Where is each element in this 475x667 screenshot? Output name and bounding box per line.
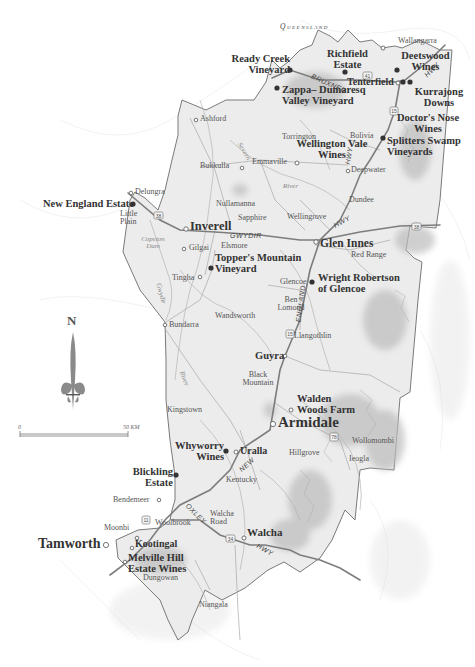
town-bendemeer: Bendemeer xyxy=(113,496,149,504)
water-label-copeton-dam: Copeton Dam xyxy=(138,236,168,251)
winery-walden-woods-farm[interactable]: Walden Woods Farm xyxy=(297,393,363,415)
scale-start-label: 0 xyxy=(18,424,21,430)
town-niangala: Niangala xyxy=(199,601,228,609)
winery-doctors-nose-wines[interactable]: Doctor's Nose Wines xyxy=(396,112,460,134)
town-wellingrove: Wellingrove xyxy=(287,213,326,221)
town-llangothlin: Llangothlin xyxy=(294,332,331,340)
north-label: N xyxy=(67,313,76,329)
winery-ready-creek-vineyard[interactable]: Ready Creek Vineyard xyxy=(230,53,290,75)
town-tingha: Tingha xyxy=(172,274,194,282)
town-ben-lomond: Ben Lomond xyxy=(277,296,305,313)
town-walcha-road: Walcha Road xyxy=(210,510,234,527)
winery-kurrajong-downs[interactable]: Kurrajong Downs xyxy=(414,86,464,108)
town-ashford: Ashford xyxy=(200,115,226,123)
town-walcha: Walcha xyxy=(247,527,282,539)
winery-new-england-estate[interactable]: New England Estate xyxy=(43,198,134,209)
town-sapphire: Sapphire xyxy=(238,214,266,222)
scale-bar xyxy=(20,431,128,437)
town-delungra: Delungra xyxy=(135,188,165,196)
winery-whyworry-wines[interactable]: Whyworry Wines xyxy=(170,440,224,462)
route-38-east: 38 xyxy=(414,224,420,230)
town-glen-innes: Glen Innes xyxy=(320,237,373,249)
winery-zappa-dumaresq-valley-vineyard[interactable]: Zappa– Dumaresq Valley Vineyard xyxy=(282,84,370,106)
town-guyra: Guyra xyxy=(255,350,284,361)
winery-wellington-vale-wines[interactable]: Wellington Vale Wines xyxy=(291,138,373,160)
town-kentucky: Kentucky xyxy=(226,476,257,484)
town-kingstown: Kingstown xyxy=(167,406,202,414)
town-dungowan: Dungowan xyxy=(143,574,178,582)
town-inverell: Inverell xyxy=(190,220,231,233)
route-38-west: 38 xyxy=(156,213,162,219)
route-11: 11 xyxy=(143,517,148,523)
town-ieogla: Ieogla xyxy=(349,455,369,463)
winery-blickling-estate[interactable]: Blickling Estate xyxy=(128,466,173,488)
town-bundarra: Bundarra xyxy=(169,321,199,329)
town-elsmore: Elsmore xyxy=(221,242,248,250)
town-armidale: Armidale xyxy=(278,415,339,431)
town-deepwater: Deepwater xyxy=(351,166,386,174)
region-map: 41 15 38 38 15 78 11 34 xyxy=(0,0,475,667)
town-nullamanna: Nullamanna xyxy=(216,200,255,208)
town-little-plain: Little Plain xyxy=(120,210,144,227)
town-uralla: Uralla xyxy=(240,446,267,457)
town-wandsworth: Wandsworth xyxy=(215,312,255,320)
town-wollomombi: Wollomombi xyxy=(352,437,394,445)
town-dundee: Dundee xyxy=(349,196,374,204)
winery-toppers-mountain-vineyard[interactable]: Topper's Mountain Vineyard xyxy=(215,252,305,274)
town-bukkulla: Bukkulla xyxy=(200,162,229,170)
winery-splitters-swamp-vineyards[interactable]: Splitters Swamp Vineyards xyxy=(387,135,467,157)
route-78: 78 xyxy=(331,434,337,440)
town-moonbi: Moonbi xyxy=(104,524,129,532)
route-15-guyra: 15 xyxy=(287,331,293,337)
route-34: 34 xyxy=(228,536,234,542)
town-red-range: Red Range xyxy=(351,251,386,259)
scale-end-label: 50 KM xyxy=(123,424,140,430)
town-kootingal: Kootingal xyxy=(135,539,177,550)
town-black-mountain: Black Mountain xyxy=(241,371,275,388)
town-glencoe: Glencoe xyxy=(280,278,307,286)
town-hillgrove: Hillgrove xyxy=(289,449,320,457)
town-emmaville: Emmaville xyxy=(252,158,287,166)
town-tamworth: Tamworth xyxy=(38,537,101,552)
compass-fleur-de-lis xyxy=(61,332,85,410)
winery-deetswood-wines[interactable]: Deetswood Wines xyxy=(398,50,453,72)
water-label-river-1: River xyxy=(283,183,298,190)
state-label-queensland: Queensland xyxy=(280,23,329,31)
winery-richfield-estate[interactable]: Richfield Estate xyxy=(325,48,370,70)
town-wallangarra: Wallangarra xyxy=(398,37,437,45)
town-gilgai: Gilgai xyxy=(189,244,209,252)
town-woolbrook: Woolbrook xyxy=(155,519,191,527)
road-label-gwydir: GWYDIR xyxy=(230,232,262,239)
winery-melville-hill-estate-wines[interactable]: Melville Hill Estate Wines xyxy=(128,552,188,574)
winery-wright-robertson-of-glencoe[interactable]: Wright Robertson of Glencoe xyxy=(318,272,403,294)
